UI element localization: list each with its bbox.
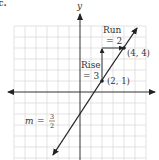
point-a-label: (2, 1) bbox=[107, 76, 130, 86]
rise-label: Rise bbox=[81, 60, 101, 70]
point-4-4 bbox=[122, 46, 126, 50]
point-2-1 bbox=[100, 79, 104, 83]
run-value: = 2 bbox=[106, 36, 122, 46]
rise-value: = 3 bbox=[83, 71, 99, 81]
y-axis-label: y bbox=[76, 1, 83, 11]
run-label: Run bbox=[103, 25, 122, 35]
part-label: c. bbox=[0, 0, 7, 8]
point-b-label: (4, 4) bbox=[127, 48, 150, 58]
slope-equals: = bbox=[37, 116, 45, 126]
slope-diagram: c. y Run = 2 Rise = 3 (2, 1) (4, 4) m = … bbox=[0, 0, 159, 160]
slope-numerator: 3 bbox=[50, 113, 54, 121]
slope-denominator: 2 bbox=[50, 122, 54, 130]
slope-m: m bbox=[25, 116, 34, 126]
